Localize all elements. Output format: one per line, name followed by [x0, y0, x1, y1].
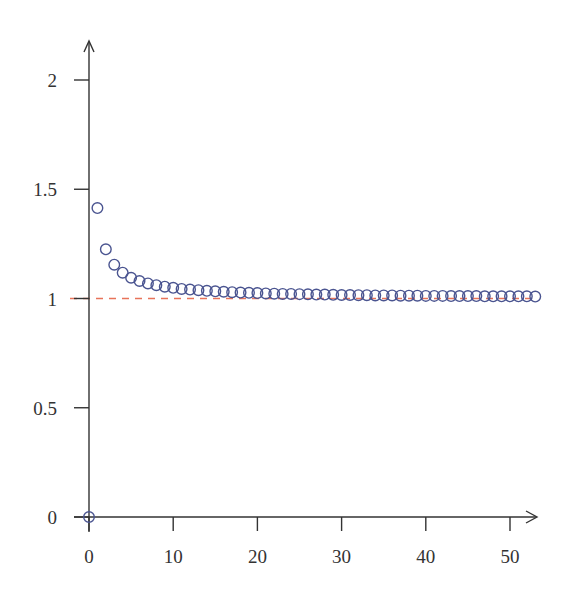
x-tick-label: 40 [416, 546, 435, 567]
x-tick-label: 50 [501, 546, 520, 567]
data-point-marker [92, 203, 103, 214]
y-tick-label: 2 [48, 70, 58, 91]
y-axis-ticks: 00.511.52 [33, 70, 89, 528]
x-tick-label: 10 [164, 546, 183, 567]
y-tick-label: 0 [48, 507, 58, 528]
x-tick-label: 0 [84, 546, 94, 567]
data-point-marker [109, 259, 120, 270]
data-points [84, 203, 541, 523]
scatter-chart: 00.511.52 01020304050 [0, 0, 564, 596]
y-tick-label: 1 [48, 289, 58, 310]
x-axis-ticks: 01020304050 [84, 517, 519, 567]
data-point-marker [101, 244, 112, 255]
y-tick-label: 1.5 [33, 179, 57, 200]
x-tick-label: 20 [248, 546, 267, 567]
x-tick-label: 30 [332, 546, 351, 567]
y-tick-label: 0.5 [33, 398, 57, 419]
